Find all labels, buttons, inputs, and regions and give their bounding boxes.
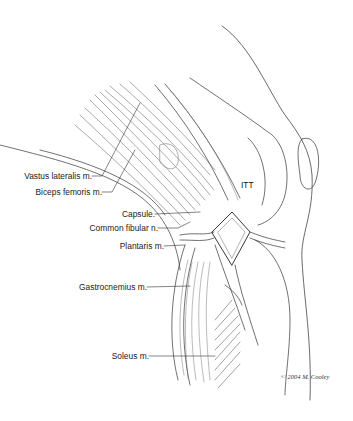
label-itt: ITT <box>241 180 254 190</box>
knee-anatomy-illustration <box>0 0 353 421</box>
label-gastrocnemius: Gastrocnemius m. <box>79 282 147 292</box>
label-common-fibular-nerve: Common fibular n. <box>90 223 158 233</box>
label-capsule: Capsule. <box>122 209 155 219</box>
copyright-credit: © 2004 M. Cooley <box>281 373 329 380</box>
label-soleus: Soleus m. <box>112 351 149 361</box>
label-vastus-lateralis: Vastus lateralis m. <box>24 171 92 181</box>
label-biceps-femoris: Biceps femoris m. <box>35 187 102 197</box>
label-plantaris: Plantaris m. <box>120 241 164 251</box>
